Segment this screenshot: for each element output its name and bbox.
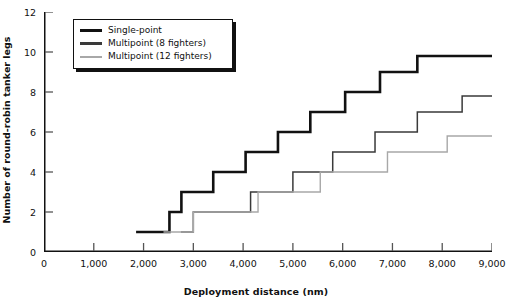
y-tick-label: 2: [10, 207, 36, 218]
y-tick-label: 8: [10, 87, 36, 98]
x-axis-title: Deployment distance (nm): [0, 286, 512, 297]
legend-label: Multipoint (12 fighters): [108, 50, 212, 63]
chart-figure: Number of round-robin tanker legs 024681…: [0, 0, 512, 308]
legend-line-swatch: [80, 29, 102, 32]
series-line-0: [136, 56, 492, 232]
x-tick-label: 9,000: [462, 258, 512, 269]
legend-line-swatch: [80, 56, 102, 58]
legend-label: Multipoint (8 fighters): [108, 37, 206, 50]
legend-item: Multipoint (8 fighters): [80, 37, 226, 50]
chart-legend: Single-pointMultipoint (8 fighters)Multi…: [73, 19, 233, 69]
y-tick-label: 12: [10, 7, 36, 18]
y-tick-label: 10: [10, 47, 36, 58]
y-tick-label: 4: [10, 167, 36, 178]
legend-item: Single-point: [80, 24, 226, 37]
legend-item: Multipoint (12 fighters): [80, 50, 226, 63]
legend-label: Single-point: [108, 24, 162, 37]
legend-line-swatch: [80, 42, 102, 44]
y-tick-label: 0: [10, 247, 36, 258]
y-tick-label: 6: [10, 127, 36, 138]
